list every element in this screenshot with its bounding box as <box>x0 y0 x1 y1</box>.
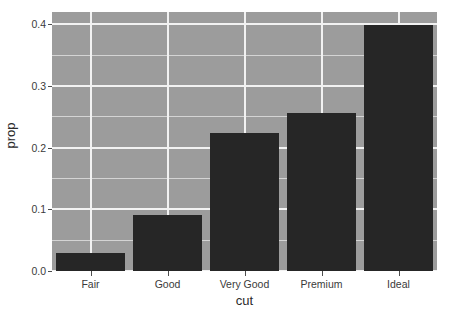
y-tick-mark <box>48 209 52 210</box>
x-tick-mark <box>399 271 400 276</box>
x-axis-title: cut <box>52 293 437 308</box>
x-tick-mark <box>245 271 246 276</box>
x-tick-mark <box>322 271 323 276</box>
x-tick-label: Ideal <box>387 278 410 290</box>
x-axis-title-label: cut <box>236 293 253 308</box>
bar-very-good <box>210 133 279 271</box>
y-axis-tick-labels: 0.00.10.20.30.4 <box>18 0 46 316</box>
y-tick-mark <box>48 271 52 272</box>
y-axis-title-label: prop <box>3 122 18 148</box>
x-axis-tick-marks <box>52 271 437 277</box>
bar-ideal <box>364 25 433 271</box>
x-tick-label: Fair <box>81 278 99 290</box>
plot-panel <box>52 12 437 271</box>
x-tick-label: Good <box>155 278 181 290</box>
y-tick-label: 0.2 <box>18 143 46 153</box>
y-tick-mark <box>48 148 52 149</box>
y-tick-label: 0.3 <box>18 81 46 91</box>
x-axis-tick-labels: FairGoodVery GoodPremiumIdeal <box>52 278 437 292</box>
x-tick-mark <box>168 271 169 276</box>
y-tick-label: 0.1 <box>18 204 46 214</box>
gridline-major-vertical <box>90 12 92 271</box>
bar-premium <box>287 113 356 271</box>
bar-chart: prop 0.00.10.20.30.4 FairGoodVery GoodPr… <box>0 0 454 316</box>
x-tick-mark <box>91 271 92 276</box>
x-tick-label: Premium <box>300 278 342 290</box>
y-axis-title: prop <box>0 0 20 271</box>
y-tick-mark <box>48 86 52 87</box>
bar-fair <box>56 253 125 271</box>
y-tick-label: 0.4 <box>18 19 46 29</box>
y-tick-label: 0.0 <box>18 266 46 276</box>
y-tick-mark <box>48 24 52 25</box>
x-tick-label: Very Good <box>220 278 270 290</box>
bar-good <box>133 215 202 271</box>
